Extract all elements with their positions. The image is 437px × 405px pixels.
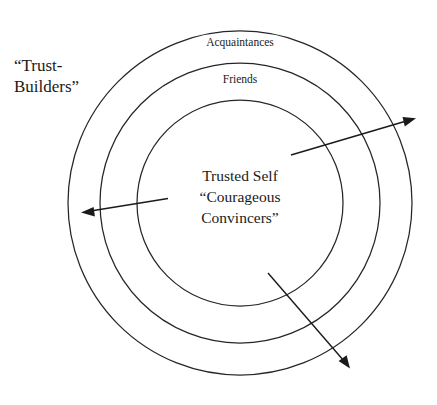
ring-label-friends: Friends — [165, 73, 315, 87]
arrow-lower-right — [268, 273, 350, 369]
trust-builders-label: “Trust-Builders” — [14, 56, 122, 97]
trust-builders-line-1: “Trust- — [14, 56, 122, 77]
arrow-upper-right-head — [403, 117, 417, 127]
center-line-3: Convincers” — [150, 208, 330, 229]
trust-builders-line-2: Builders” — [14, 77, 122, 98]
ring-label-acquaintances: Acquaintances — [150, 36, 330, 50]
center-line-2: “Courageous — [150, 187, 330, 208]
arrow-upper-right — [291, 117, 416, 155]
arrow-left-head — [81, 207, 95, 217]
center-line-1: Trusted Self — [150, 166, 330, 187]
arrow-lower-right-line — [268, 273, 344, 361]
center-label: Trusted Self“CourageousConvincers” — [150, 166, 330, 229]
trust-circles-diagram: “Trust-Builders” Acquaintances Friends T… — [0, 0, 437, 405]
